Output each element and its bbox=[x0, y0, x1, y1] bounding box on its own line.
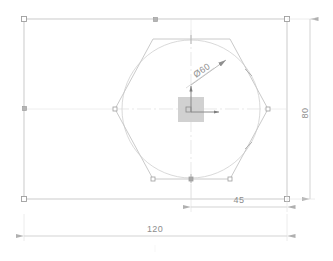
height-dimension-label: 80 bbox=[300, 108, 310, 119]
cad-drawing-svg[interactable]: Ø60 80 45 120 bbox=[0, 0, 333, 261]
grip-square-icon[interactable] bbox=[113, 107, 117, 111]
height-dimension[interactable]: 80 bbox=[287, 19, 315, 199]
width-dimension-label: 120 bbox=[147, 224, 163, 234]
cad-drawing-canvas[interactable]: Ø60 80 45 120 bbox=[0, 0, 333, 261]
grip-square-icon[interactable] bbox=[228, 177, 232, 181]
offset-dimension[interactable]: 45 bbox=[191, 190, 287, 212]
grip-square-icon[interactable] bbox=[189, 177, 193, 181]
grip-square-icon[interactable] bbox=[22, 197, 27, 202]
grip-square-icon[interactable] bbox=[266, 107, 270, 111]
grip-square-icon[interactable] bbox=[151, 177, 155, 181]
width-dimension[interactable]: 120 bbox=[24, 214, 287, 241]
diameter-dimension-leader[interactable]: Ø60 bbox=[186, 60, 226, 88]
grip-square-icon[interactable] bbox=[23, 107, 27, 111]
ucs-origin-marker[interactable] bbox=[178, 86, 219, 122]
grip-square-icon[interactable] bbox=[22, 17, 27, 22]
tick-lower-right bbox=[245, 142, 252, 149]
offset-dimension-label: 45 bbox=[234, 195, 245, 205]
tick-upper-right bbox=[245, 69, 252, 76]
grip-square-icon[interactable] bbox=[154, 18, 158, 22]
